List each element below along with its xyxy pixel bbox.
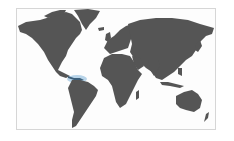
new-zealand[interactable]: [204, 112, 209, 122]
world-map[interactable]: [0, 0, 234, 141]
continent-asia[interactable]: [128, 18, 214, 80]
philippines[interactable]: [178, 68, 182, 76]
continent-north-america[interactable]: [18, 12, 82, 78]
madagascar[interactable]: [136, 90, 139, 100]
continent-australia[interactable]: [176, 90, 202, 112]
continent-south-america[interactable]: [68, 80, 98, 128]
iceland[interactable]: [98, 27, 104, 31]
indonesia[interactable]: [160, 82, 184, 88]
